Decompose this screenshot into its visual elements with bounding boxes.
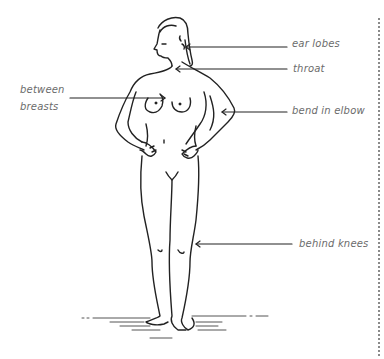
hair-outline: [158, 17, 192, 66]
legs-outline: [141, 156, 199, 330]
diagram-canvas: ear lobes throat between breasts bend in…: [0, 0, 384, 359]
label-ear-lobes: ear lobes: [292, 38, 340, 50]
figure-illustration: [0, 0, 384, 359]
label-between-breasts-line1: between: [20, 84, 65, 96]
label-throat: throat: [293, 63, 325, 75]
callout-lines: [70, 44, 292, 247]
face-outline: [154, 30, 184, 66]
dotted-divider: [378, 18, 380, 356]
torso-outline: [116, 62, 235, 158]
label-behind-knees: behind knees: [299, 238, 369, 250]
label-bend-in-elbow: bend in elbow: [292, 105, 365, 117]
label-between-breasts-line2: breasts: [20, 101, 58, 113]
